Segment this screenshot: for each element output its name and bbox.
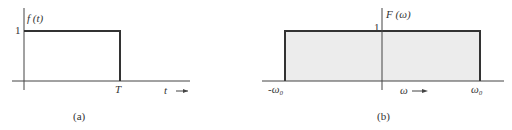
b-x-tick-left: -ω₀ — [268, 83, 283, 95]
b-arrowhead-icon — [422, 89, 428, 93]
panel-b-plot — [262, 8, 504, 93]
b-y-label: F (ω) — [386, 8, 411, 20]
a-y-label: f (t) — [27, 12, 43, 24]
a-x-tick: T — [115, 83, 121, 95]
a-y-tick: 1 — [15, 24, 21, 36]
a-pulse-line — [24, 31, 120, 81]
a-caption: (a) — [73, 110, 85, 122]
b-caption: (b) — [377, 110, 390, 122]
b-y-tick: 1 — [374, 21, 380, 33]
b-x-tick-right: ω₀ — [471, 83, 483, 95]
b-x-label: ω — [400, 84, 408, 96]
a-x-label: t — [164, 84, 167, 96]
a-arrowhead-icon — [183, 89, 188, 93]
